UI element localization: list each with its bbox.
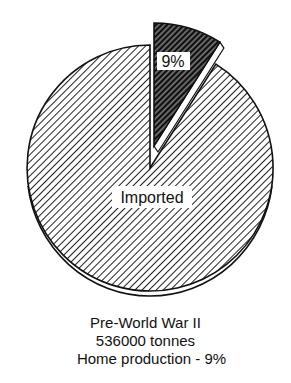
slice-label-imported: Imported [120,189,183,206]
chart-total: 536000 tonnes [0,332,291,350]
chart-title: Pre-World War II [0,314,291,332]
slice-imported[interactable] [27,45,273,291]
pie-chart: 9% Imported [0,0,291,312]
chart-note: Home production - 9% [6,350,291,368]
slice-label-home: 9% [161,53,184,70]
